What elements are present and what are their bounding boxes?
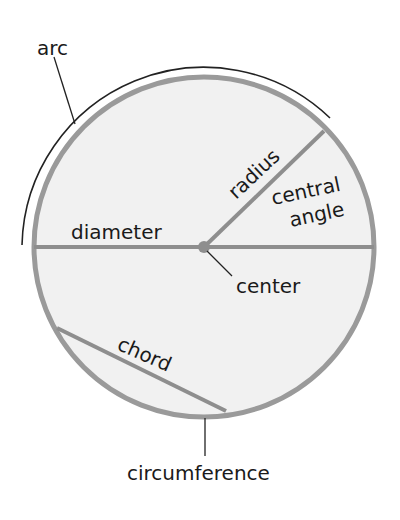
arc-leader-line bbox=[54, 57, 75, 124]
label-circumference: circumference bbox=[127, 461, 270, 485]
label-center: center bbox=[236, 274, 301, 298]
label-diameter: diameter bbox=[71, 220, 162, 244]
label-arc: arc bbox=[37, 36, 68, 60]
circle-diagram: arc radius central angle diameter center… bbox=[0, 0, 400, 520]
center-point bbox=[198, 241, 210, 253]
